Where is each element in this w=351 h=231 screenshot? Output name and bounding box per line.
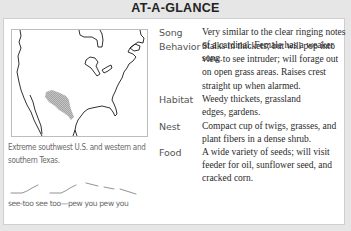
fact-label-habitat: Habitat <box>159 94 193 105</box>
page-title: AT-A-GLANCE <box>0 0 351 18</box>
song-pitch-sketch-icon <box>8 179 148 197</box>
fact-value-nest: Compact cup of twigs, grasses, and plant… <box>202 120 347 146</box>
fact-label-behavior: Behavior <box>159 41 200 52</box>
fact-label-song: Song <box>159 27 183 38</box>
range-map <box>11 29 148 137</box>
song-caption: see-too see too—pew you pew you <box>8 199 128 208</box>
fact-label-food: Food <box>159 147 181 158</box>
at-a-glance-panel: Extreme southwest U.S. and western and s… <box>3 18 345 225</box>
fact-value-food: A wide variety of seeds; will visit feed… <box>202 146 337 186</box>
range-area <box>45 90 74 120</box>
north-america-map-icon <box>12 30 147 136</box>
fact-label-nest: Nest <box>159 121 180 132</box>
fact-value-habitat: Weedy thickets, grassland edges, gardens… <box>202 93 307 119</box>
range-caption: Extreme southwest U.S. and western and s… <box>8 141 153 167</box>
fact-value-behavior: Stalks in thickets; but will pop into vi… <box>202 40 347 93</box>
